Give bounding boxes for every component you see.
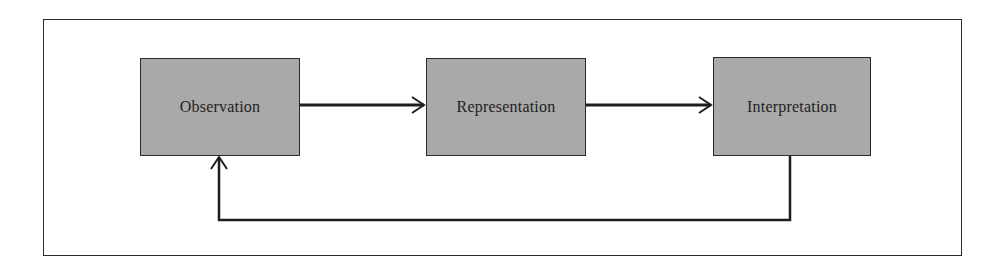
node-observation: Observation [140, 58, 300, 156]
node-representation: Representation [426, 58, 586, 156]
node-label: Observation [180, 98, 260, 116]
node-label: Interpretation [747, 98, 837, 116]
node-interpretation: Interpretation [713, 57, 871, 156]
node-label: Representation [457, 98, 556, 116]
